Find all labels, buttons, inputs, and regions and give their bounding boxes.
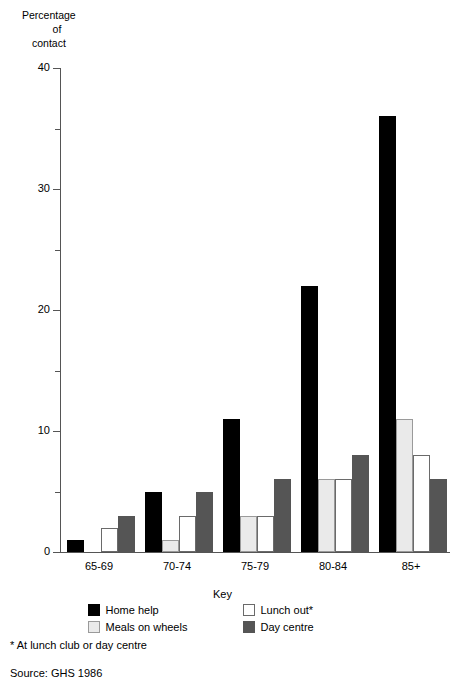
- legend-swatch-icon-dark: [243, 621, 255, 633]
- y-tick-label-0: 0: [44, 544, 50, 559]
- bar-group-85+: [379, 68, 447, 552]
- y-tick-0: 0: [53, 552, 60, 553]
- legend-item-label: Meals on wheels: [106, 621, 188, 633]
- bar-65-69-home-help: [67, 540, 84, 552]
- bar-85+-day-centre: [430, 479, 447, 552]
- bar-80-84-home-help: [301, 286, 318, 552]
- bar-group-75-79: [223, 68, 291, 552]
- y-axis-title-line-1: Percentage: [22, 8, 126, 22]
- y-tick-minor-25: [55, 250, 60, 251]
- x-axis-label-85+: 85+: [372, 560, 450, 572]
- y-tick-label-10: 10: [38, 423, 50, 438]
- legend-item-lunch-out[interactable]: Lunch out*: [243, 604, 314, 616]
- bar-85+-lunch-out: [413, 455, 430, 552]
- x-axis-line: [60, 552, 450, 553]
- bar-group-70-74: [145, 68, 213, 552]
- legend-swatch-icon-black: [88, 604, 100, 616]
- bar-70-74-day-centre: [196, 492, 213, 553]
- bar-80-84-meals-on-wheels: [318, 479, 335, 552]
- bar-65-69-lunch-out: [101, 528, 118, 552]
- bar-75-79-lunch-out: [257, 516, 274, 552]
- y-axis-title: Percentage of contact: [22, 8, 126, 50]
- y-tick-label-30: 30: [38, 181, 50, 196]
- legend-item-day-centre[interactable]: Day centre: [243, 621, 314, 633]
- x-axis-label-65-69: 65-69: [60, 560, 138, 572]
- footnote-asterisk: * At lunch club or day centre: [10, 639, 147, 651]
- legend-title: Key: [0, 588, 453, 600]
- legend-items: Home helpLunch out*Meals on wheelsDay ce…: [88, 604, 366, 638]
- bar-80-84-lunch-out: [335, 479, 352, 552]
- bar-75-79-day-centre: [274, 479, 291, 552]
- bar-75-79-meals-on-wheels: [240, 516, 257, 552]
- y-tick-label-20: 20: [38, 302, 50, 317]
- y-axis-line: [60, 68, 61, 552]
- y-tick-minor-5: [55, 492, 60, 493]
- legend-swatch-icon-white: [243, 604, 255, 616]
- chart-legend: Key Home helpLunch out*Meals on wheelsDa…: [0, 588, 453, 638]
- x-axis-label-75-79: 75-79: [216, 560, 294, 572]
- legend-item-label: Home help: [106, 604, 159, 616]
- y-axis-title-line-3: contact: [22, 36, 126, 50]
- legend-item-home-help[interactable]: Home help: [88, 604, 159, 616]
- y-tick-minor-35: [55, 129, 60, 130]
- bar-group-80-84: [301, 68, 369, 552]
- y-tick-30: 30: [53, 189, 60, 190]
- y-axis-title-line-2: of: [22, 22, 126, 36]
- y-tick-label-40: 40: [38, 60, 50, 75]
- bar-65-69-day-centre: [118, 516, 135, 552]
- bar-85+-home-help: [379, 116, 396, 552]
- bar-80-84-day-centre: [352, 455, 369, 552]
- bar-70-74-lunch-out: [179, 516, 196, 552]
- legend-item-label: Lunch out*: [261, 604, 314, 616]
- bar-group-65-69: [67, 68, 135, 552]
- y-tick-10: 10: [53, 431, 60, 432]
- source-note: Source: GHS 1986: [10, 667, 102, 679]
- bar-85+-meals-on-wheels: [396, 419, 413, 552]
- chart-plot-area: 010203040 65-6970-7475-7980-8485+: [60, 68, 450, 552]
- y-tick-minor-15: [55, 371, 60, 372]
- bar-75-79-home-help: [223, 419, 240, 552]
- bar-70-74-meals-on-wheels: [162, 540, 179, 552]
- bar-70-74-home-help: [145, 492, 162, 553]
- y-tick-20: 20: [53, 310, 60, 311]
- legend-item-meals-on-wheels[interactable]: Meals on wheels: [88, 621, 188, 633]
- y-tick-40: 40: [53, 68, 60, 69]
- legend-swatch-icon-light: [88, 621, 100, 633]
- x-axis-label-80-84: 80-84: [294, 560, 372, 572]
- x-axis-label-70-74: 70-74: [138, 560, 216, 572]
- legend-item-label: Day centre: [261, 621, 314, 633]
